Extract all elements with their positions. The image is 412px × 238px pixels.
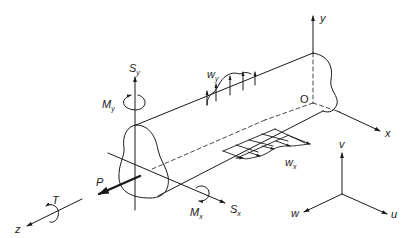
moment-x-label: Mx (190, 206, 203, 220)
disp-u-label: u (391, 208, 397, 220)
dist-load-y-label: wy (207, 68, 219, 83)
shear-x-label: Sx (230, 203, 241, 217)
torque-label: T (52, 194, 60, 206)
dist-load-x (223, 129, 310, 159)
disp-v-label: v (339, 138, 346, 150)
x-axis (337, 111, 380, 131)
displacement-triad (304, 153, 387, 214)
front-cross-section (119, 125, 169, 198)
beam-diagram: y x O z T P Sy My Mx Sx wy wx v u w (0, 0, 412, 238)
axial-load-label: P (96, 176, 104, 188)
z-axis-label: z (14, 223, 21, 235)
origin-label: O (300, 93, 309, 105)
dist-load-x-label: wx (285, 156, 297, 170)
shear-x-arrow (108, 153, 225, 203)
shear-y-label: Sy (129, 62, 140, 77)
y-axis-label: y (319, 12, 327, 24)
moment-y-icon (124, 95, 146, 110)
beam-body (136, 53, 337, 196)
disp-w-label: w (291, 207, 300, 219)
moment-y-label: My (102, 98, 115, 113)
hidden-lines (150, 53, 340, 170)
x-axis-label: x (384, 127, 391, 139)
